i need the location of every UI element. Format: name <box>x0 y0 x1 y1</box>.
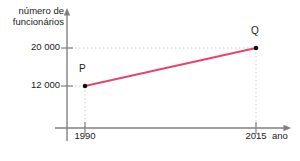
y-tick-label-12000: 12 000 <box>14 80 60 91</box>
data-point-p <box>83 84 88 89</box>
x-tick-label-1990: 1990 <box>65 131 105 142</box>
y-axis-title-line-2: funcionários <box>8 17 64 28</box>
employee-count-line-chart: número de funcionários 20 000 12 000 199… <box>0 0 300 161</box>
data-point-label-p: P <box>79 63 86 75</box>
data-point-label-q: Q <box>251 25 259 37</box>
data-line-segment-pq <box>85 48 256 86</box>
x-axis-title: ano <box>272 131 288 142</box>
x-tick-label-2015: 2015 <box>236 131 276 142</box>
data-point-q <box>254 46 259 51</box>
y-axis-title: número de funcionários <box>8 6 64 28</box>
y-tick-label-20000: 20 000 <box>14 42 60 53</box>
y-axis-arrow-icon <box>64 8 70 16</box>
